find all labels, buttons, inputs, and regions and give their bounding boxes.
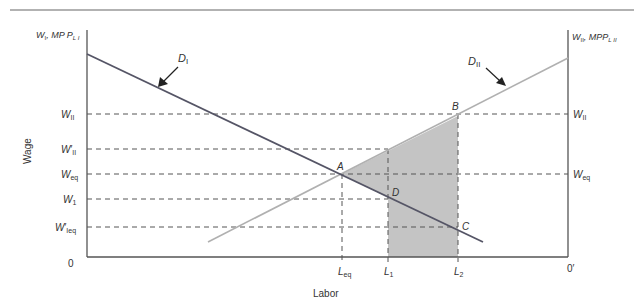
- point-a-label: A: [336, 161, 344, 172]
- point-b-label: B: [452, 101, 459, 112]
- tick-right-w-ii: WII: [573, 109, 586, 121]
- tick-w-ii: WII: [61, 109, 74, 121]
- origin-right: 0′: [567, 263, 575, 274]
- x-tick-labels: Leq L1 L2: [338, 266, 464, 279]
- tick-l-eq: Leq: [338, 266, 351, 279]
- tick-l-2: L2: [454, 266, 464, 278]
- right-tick-labels: WII Weq: [573, 109, 590, 182]
- d2-arrow-icon: [486, 68, 506, 86]
- origin-left: 0: [68, 258, 74, 269]
- tick-w-1: W1: [63, 194, 76, 206]
- point-c-label: C: [462, 221, 470, 232]
- tick-w-eq: Weq: [61, 169, 78, 182]
- shaded-area: [342, 116, 458, 257]
- d2-label: DII: [468, 55, 480, 69]
- tick-w-prime-ieq: W′Ieq: [55, 222, 76, 235]
- d1-arrow-icon: [158, 67, 178, 87]
- dashed-guides: [87, 114, 568, 262]
- left-tick-labels: WII W′II Weq W1 W′Ieq: [55, 109, 78, 235]
- tick-w-prime-ii: W′II: [61, 144, 76, 156]
- tick-right-w-eq: Weq: [573, 169, 590, 182]
- labor-market-diagram: DI DII WI, MP PL I WII, MPPL II Wage Lab…: [0, 0, 640, 304]
- x-axis-label: Labor: [313, 288, 339, 299]
- tick-l-1: L1: [384, 266, 394, 278]
- point-d-label: D: [392, 187, 399, 198]
- right-axis-title: WII, MPPL II: [572, 32, 617, 43]
- y-axis-label: Wage: [22, 138, 33, 164]
- left-axis-title: WI, MP PL I: [36, 30, 80, 41]
- d1-label: DI: [178, 52, 188, 66]
